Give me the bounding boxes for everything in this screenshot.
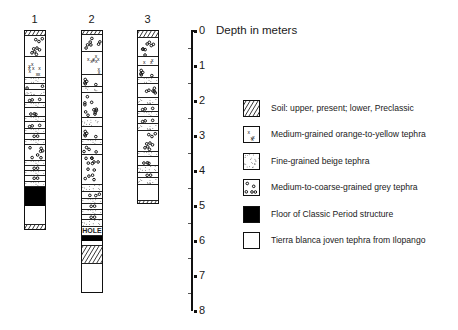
tick-marker-icon [194,240,197,243]
depth-tick-6: 6 [194,235,205,246]
tick-label: 5 [199,199,205,211]
depth-tick-1: 1 [194,60,205,71]
hole-label: HOLE [82,227,102,235]
tick-label: 3 [199,129,205,141]
layer-grey [138,38,158,57]
legend-label: Fine-grained beige tephra [271,156,369,166]
layer-grey [138,105,158,112]
layer-grey [25,36,45,57]
layer-grey [82,155,102,185]
layer-beige [138,98,158,105]
tick-label: 8 [199,304,205,316]
minor-tick [188,153,191,154]
layer-grey [138,157,158,166]
minor-tick [188,293,191,294]
minor-tick [188,48,191,49]
tick-marker-icon [194,205,197,208]
layer-beige [82,185,102,192]
layer-beige [82,220,102,227]
beige-swatch-icon [243,153,260,170]
minor-tick [188,223,191,224]
layer-tbj [25,206,45,225]
depth-tick-0: 0 [194,25,205,36]
tick-marker-icon [194,30,197,33]
minor-tick [188,118,191,119]
svg-text:x: x [151,58,154,64]
layer-grey [82,75,102,87]
minor-tick [188,83,191,84]
tick-label: 2 [199,94,205,106]
tick-label: 1 [199,59,205,71]
orange-swatch-icon: xxxx [243,126,260,143]
tick-marker-icon [194,100,197,103]
svg-text:x: x [32,66,35,72]
layer-grey [82,93,102,118]
legend-label: Tierra blanca joven tephra from Ilopango [271,235,425,245]
layer-grey [25,145,45,161]
layer-grey [82,192,102,199]
svg-text:x: x [143,60,146,66]
depth-tick-3: 3 [194,130,205,141]
legend-label: Floor of Classic Period structure [271,209,393,219]
layer-grey [82,127,102,139]
legend-label: Medium-grained orange-to-yellow tephra [271,129,426,139]
layer-orange: xxx [138,57,158,66]
layer-grey [138,117,158,124]
tick-marker-icon [194,65,197,68]
layer-soil [138,31,158,38]
minor-tick [188,188,191,189]
tbj-swatch-icon [243,232,260,249]
layer-grey [25,96,45,103]
svg-text:x: x [98,69,101,75]
depth-tick-7: 7 [194,270,205,281]
layer-floor [25,187,45,206]
depth-tick-5: 5 [194,200,205,211]
layer-grey [82,35,102,52]
layer-soil [25,225,45,230]
depth-tick-2: 2 [194,95,205,106]
layer-beige [82,119,102,128]
tick-marker-icon [194,310,197,313]
depth-axis-line [191,30,193,311]
tick-marker-icon [194,275,197,278]
tick-marker-icon [194,135,197,138]
layer-grey [138,131,158,152]
layer-grey [82,145,102,156]
soil-swatch-icon [243,100,260,117]
tick-label: 6 [199,234,205,246]
tick-label: 7 [199,269,205,281]
layer-soil [82,246,102,264]
layer-grey [25,108,45,117]
stratigraphic-column-3: xxx [137,30,159,204]
layer-orange: xxxxxxxx [25,57,45,78]
layer-tbj [82,264,102,293]
layer-grey [138,84,158,98]
floor-swatch-icon [243,206,260,223]
grey-swatch-icon [243,179,260,196]
tick-label: 4 [199,164,205,176]
layer-beige [138,178,158,185]
column-1-label: 1 [24,13,45,25]
depth-tick-4: 4 [194,165,205,176]
depth-axis-title: Depth in meters [216,24,297,36]
svg-text:x: x [38,65,41,71]
layer-orange: xxxxxxxxx [82,52,102,75]
svg-text:x: x [38,71,41,77]
layer-grey [25,122,45,129]
layer-soil [138,201,158,204]
layer-beige [138,124,158,131]
column-2-label: 2 [81,13,102,25]
layer-beige [138,166,158,173]
minor-tick [188,258,191,259]
column-3-label: 3 [137,13,158,25]
legend-label: Soil: upper, present; lower, Preclassic [271,103,414,113]
stratigraphic-column-2: xxxxxxxxxHOLE [81,30,103,293]
layer-hole: HOLE [82,227,102,236]
layer-tbj [138,185,158,201]
layer-grey [138,66,158,78]
legend-label: Medium-to-coarse-grained grey tephra [271,182,418,192]
tick-marker-icon [194,170,197,173]
stratigraphic-column-1: xxxxxxxx [24,30,46,230]
tick-label: 0 [199,24,205,36]
depth-tick-8: 8 [194,305,205,316]
